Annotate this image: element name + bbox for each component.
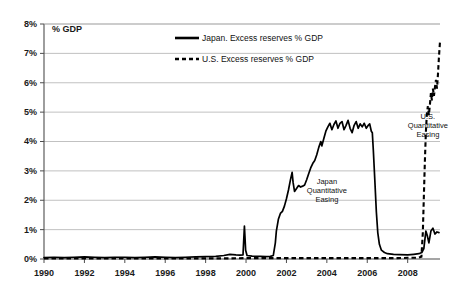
y-tick-label: 0% (24, 254, 37, 264)
x-tick-label: 2008 (398, 268, 418, 278)
x-tick-label: 1990 (34, 268, 54, 278)
annotation-line: Easing (416, 130, 439, 139)
annotation-line: Japan (317, 177, 337, 186)
series-line-japan (44, 120, 439, 257)
x-tick-label: 1992 (74, 268, 94, 278)
chart-legend: Japan. Excess reserves % GDPU.S. Excess … (175, 33, 323, 64)
x-tick-label: 2004 (317, 268, 337, 278)
y-axis-tick-labels: 0%1%2%3%4%5%6%7%8% (24, 19, 37, 264)
annotation-line: Quantitative (408, 121, 448, 130)
data-series (44, 42, 440, 259)
annotation-line: Easing (315, 195, 338, 204)
excess-reserves-line-chart: 0%1%2%3%4%5%6%7%8% 199019921994199619982… (0, 0, 459, 295)
y-tick-label: 4% (24, 136, 37, 146)
x-tick-label: 2002 (276, 268, 296, 278)
annotation-us-qe: U.S.QuantitativeEasing (408, 112, 448, 139)
series-line-us (44, 42, 440, 259)
legend-label: U.S. Excess reserves % GDP (202, 54, 314, 64)
chart-container: 0%1%2%3%4%5%6%7%8% 199019921994199619982… (0, 0, 459, 295)
y-tick-label: 3% (24, 166, 37, 176)
legend-label: Japan. Excess reserves % GDP (202, 33, 323, 43)
x-tick-label: 1994 (115, 268, 135, 278)
x-tick-label: 2000 (236, 268, 256, 278)
annotation-line: U.S. (421, 112, 436, 121)
annotation-line: Quantitative (307, 186, 347, 195)
x-axis-tick-labels: 1990199219941996199820002002200420062008 (34, 259, 418, 278)
x-tick-label: 2006 (357, 268, 377, 278)
y-tick-label: 2% (24, 195, 37, 205)
x-tick-label: 1998 (196, 268, 216, 278)
y-axis-title: % GDP (52, 24, 82, 34)
y-tick-label: 1% (24, 225, 37, 235)
y-tick-label: 6% (24, 78, 37, 88)
x-tick-label: 1996 (155, 268, 175, 278)
y-tick-label: 5% (24, 107, 37, 117)
y-tick-label: 7% (24, 48, 37, 58)
y-tick-label: 8% (24, 19, 37, 29)
